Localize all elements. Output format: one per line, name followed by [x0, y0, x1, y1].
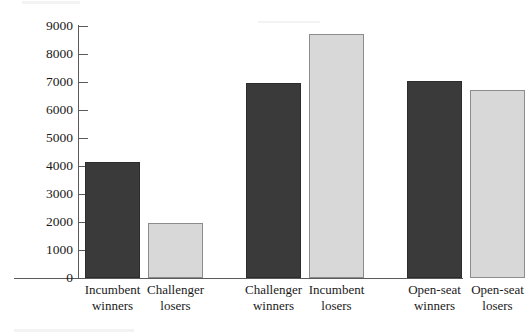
bar-open-seat-winners [407, 81, 462, 278]
bar-challenger-winners [246, 83, 301, 278]
bar-open-seat-losers [470, 90, 525, 278]
category-label-line1: Incumbent [287, 282, 387, 298]
category-label-line2: losers [126, 298, 226, 314]
bar-incumbent-winners [85, 162, 140, 278]
category-label-challenger-losers: Challengerlosers [126, 282, 226, 314]
category-label-line1: Challenger [126, 282, 226, 298]
bar-challenger-losers [148, 223, 203, 278]
category-label-line2: losers [287, 298, 387, 314]
category-label-incumbent-losers: Incumbentlosers [287, 282, 387, 314]
category-label-line2: losers [448, 298, 529, 314]
category-label-line1: Open-seat [448, 282, 529, 298]
bar-incumbent-losers [309, 34, 364, 278]
category-label-open-seat-losers: Open-seatlosers [448, 282, 529, 314]
